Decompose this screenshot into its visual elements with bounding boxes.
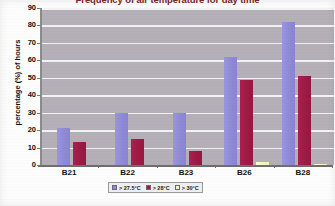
x-tick-mark xyxy=(215,165,216,168)
y-tick-mark xyxy=(37,78,40,79)
legend-label: > 27.5°C xyxy=(119,185,141,191)
chart-container: Frequency of air temperature for day tim… xyxy=(0,0,335,206)
x-tick-mark xyxy=(274,165,275,168)
x-tick-mark xyxy=(98,165,99,168)
y-tick-mark xyxy=(37,43,40,44)
y-tick-mark xyxy=(37,113,40,114)
y-tick-mark xyxy=(37,165,40,166)
legend-label: > 30°C xyxy=(182,185,199,191)
legend-swatch xyxy=(146,185,151,190)
y-tick-label: 10 xyxy=(16,144,36,151)
legend-item: > 28°C xyxy=(146,185,170,191)
x-tick-label: B23 xyxy=(157,168,215,177)
bar-group xyxy=(159,8,217,165)
bar xyxy=(189,151,202,165)
y-tick-label: 90 xyxy=(16,4,36,11)
bar-group xyxy=(42,8,100,165)
x-tick-label: B21 xyxy=(40,168,98,177)
y-tick-mark xyxy=(37,130,40,131)
y-tick-mark xyxy=(37,25,40,26)
legend-swatch xyxy=(175,185,180,190)
legend-swatch xyxy=(112,185,117,190)
x-tick-label: B28 xyxy=(274,168,332,177)
bar xyxy=(57,128,70,165)
legend-item: > 27.5°C xyxy=(112,185,141,191)
chart-legend: > 27.5°C> 28°C> 30°C xyxy=(108,182,203,193)
y-tick-mark xyxy=(37,95,40,96)
x-tick-label: B22 xyxy=(98,168,156,177)
x-axis-tick-labels: B21B22B23B26B28 xyxy=(40,168,332,180)
bar-group xyxy=(217,8,275,165)
y-tick-mark xyxy=(37,8,40,9)
bar xyxy=(131,139,144,165)
bar xyxy=(282,22,295,165)
y-tick-mark xyxy=(37,148,40,149)
bar xyxy=(224,57,237,165)
bar xyxy=(115,113,128,165)
x-tick-mark xyxy=(332,165,333,168)
y-tick-label: 50 xyxy=(16,74,36,81)
y-tick-label: 30 xyxy=(16,109,36,116)
bar xyxy=(73,142,86,165)
bar-group xyxy=(276,8,334,165)
y-tick-label: 60 xyxy=(16,56,36,63)
bars-layer xyxy=(42,8,334,165)
y-tick-label: 80 xyxy=(16,21,36,28)
y-tick-label: 40 xyxy=(16,91,36,98)
x-tick-mark xyxy=(157,165,158,168)
y-tick-mark xyxy=(37,60,40,61)
y-tick-label: 20 xyxy=(16,126,36,133)
y-tick-label: 70 xyxy=(16,39,36,46)
chart-title: Frequency of air temperature for day tim… xyxy=(0,0,335,5)
legend-label: > 28°C xyxy=(153,185,170,191)
x-tick-label: B26 xyxy=(215,168,273,177)
y-axis-tick-labels: 0102030405060708090 xyxy=(16,8,36,165)
x-axis-line xyxy=(38,165,332,167)
bar xyxy=(240,80,253,165)
bar xyxy=(173,113,186,165)
bar-group xyxy=(100,8,158,165)
bar xyxy=(298,76,311,165)
plot-area xyxy=(40,8,334,165)
y-tick-label: 0 xyxy=(16,161,36,168)
legend-item: > 30°C xyxy=(175,185,199,191)
